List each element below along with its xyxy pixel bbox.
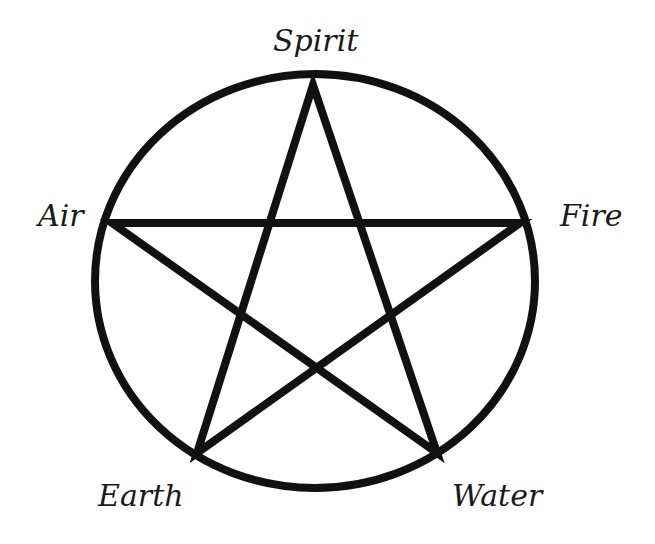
- label-water: Water: [452, 481, 542, 511]
- enclosing-circle: [95, 74, 535, 488]
- pentagram-diagram: Spirit Air Fire Earth Water: [0, 0, 655, 544]
- label-air: Air: [38, 201, 84, 231]
- pentagram-figure: [0, 0, 655, 544]
- five-point-star: [112, 85, 520, 453]
- label-spirit: Spirit: [273, 26, 358, 56]
- label-earth: Earth: [98, 481, 184, 511]
- label-fire: Fire: [560, 201, 623, 231]
